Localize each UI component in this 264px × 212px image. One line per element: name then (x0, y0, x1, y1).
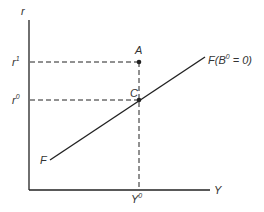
point-a (137, 60, 142, 65)
f-start-label: F (40, 154, 48, 166)
f-curve (50, 57, 205, 160)
f-end-label: F(B0 = 0) (208, 53, 252, 66)
x-axis-label: Y (214, 184, 222, 196)
y-axis-label: r (21, 5, 26, 17)
y0-tick-label: Y0 (131, 192, 142, 205)
diagram-canvas: r Y r1 r0 Y0 A C F F(B0 = 0) (0, 0, 264, 212)
r1-tick-label: r1 (12, 55, 20, 68)
r0-tick-label: r0 (12, 93, 20, 106)
point-a-label: A (134, 44, 142, 56)
point-c-label: C (130, 87, 138, 99)
